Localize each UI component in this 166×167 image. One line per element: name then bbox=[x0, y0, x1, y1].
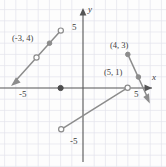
coordinate-plane-figure: -5 5 5 -5 y x (-3, 4) (4, 3) (5, 1) bbox=[0, 0, 166, 167]
point-annotation-4-3: (4, 3) bbox=[110, 40, 128, 50]
point-annotation-5-1: (5, 1) bbox=[104, 67, 122, 77]
open-endpoint-lower-left bbox=[59, 127, 64, 132]
x-axis-label: x bbox=[152, 72, 156, 82]
x-tick-label-5: 5 bbox=[134, 89, 139, 99]
open-endpoint-lower-right bbox=[125, 85, 130, 90]
x-tick-label-neg5: -5 bbox=[19, 89, 27, 99]
filled-point-on-x-axis bbox=[58, 85, 63, 90]
x-axis-arrowhead bbox=[145, 85, 153, 92]
open-endpoint-upper-left bbox=[58, 28, 63, 33]
graph-canvas bbox=[0, 0, 166, 167]
open-point-mid-upper-left bbox=[34, 55, 39, 60]
y-tick-label-5: 5 bbox=[72, 22, 77, 32]
y-axis-label: y bbox=[88, 4, 92, 14]
y-axis-arrowhead bbox=[80, 8, 87, 16]
filled-point-neg3-4 bbox=[47, 41, 52, 46]
filled-point-5-1 bbox=[136, 75, 141, 80]
filled-point-4-3 bbox=[126, 52, 131, 57]
y-tick-label-neg5: -5 bbox=[70, 136, 78, 146]
point-annotation-neg3-4: (-3, 4) bbox=[12, 33, 33, 43]
